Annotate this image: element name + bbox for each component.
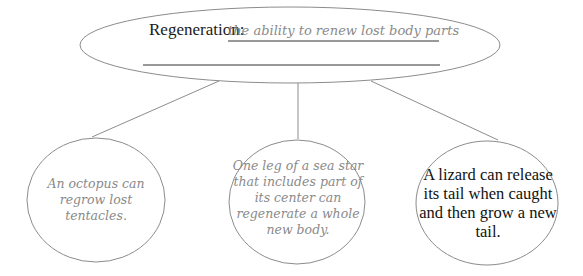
example-right-label: A lizard can release its tail when caugh…: [418, 165, 558, 241]
connector-left: [92, 81, 219, 137]
example-left-label: An octopus can regrow lost tentacles.: [44, 176, 148, 224]
example-text-right: A lizard can release its tail when caugh…: [418, 163, 558, 243]
example-text-left: An octopus can regrow lost tentacles.: [44, 165, 148, 235]
central-ellipse: [80, 7, 500, 83]
example-text-center: One leg of a sea star that includes part…: [232, 158, 364, 238]
central-definition: the ability to renew lost body parts: [228, 23, 441, 38]
connector-right: [371, 81, 498, 140]
example-center-label: One leg of a sea star that includes part…: [232, 158, 364, 238]
